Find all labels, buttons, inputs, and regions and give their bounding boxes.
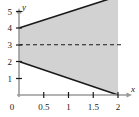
- y-tick-label-2: 2: [8, 57, 13, 67]
- x-tick-label-1p5: 1.5: [88, 102, 100, 112]
- x-tick-label-1: 1: [66, 102, 71, 112]
- plot-area: 5 4 3 2 1 0 0.5 1 1.5 2 y x: [0, 0, 139, 117]
- chart-figure: 5 4 3 2 1 0 0.5 1 1.5 2 y x: [0, 0, 139, 117]
- origin-label: 0: [10, 102, 15, 112]
- y-axis-label: y: [21, 2, 26, 12]
- y-tick-label-3: 3: [8, 40, 13, 50]
- y-tick-label-5: 5: [8, 7, 13, 17]
- x-axis-label: x: [130, 84, 135, 94]
- y-axis-arrow-icon: [17, 8, 22, 14]
- x-tick-label-2: 2: [116, 102, 121, 112]
- x-tick-label-0p5: 0.5: [38, 102, 50, 112]
- y-tick-label-4: 4: [8, 23, 13, 33]
- shaded-region: [19, 0, 118, 95]
- y-tick-label-1: 1: [8, 74, 13, 84]
